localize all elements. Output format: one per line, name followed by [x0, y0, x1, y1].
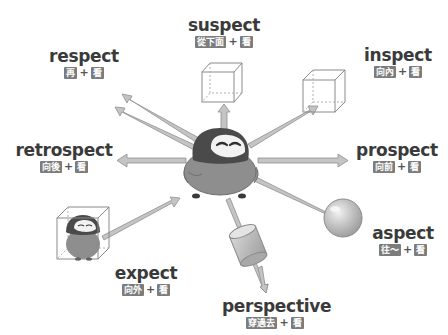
plus-sign: +	[64, 161, 73, 173]
arrow-respect-2	[115, 107, 197, 150]
gloss-prospect: 向前 + 看	[352, 161, 442, 173]
aspect-sphere	[324, 199, 362, 237]
root-box: 看	[408, 161, 421, 173]
root-box: 看	[240, 36, 253, 48]
small-penguin-icon	[66, 215, 100, 261]
root-box: 看	[157, 284, 170, 296]
term-perspective: perspective	[222, 296, 331, 316]
plus-sign: +	[79, 67, 88, 79]
gloss-aspect: 往～ + 看	[364, 244, 442, 256]
term-prospect: prospect	[356, 140, 438, 160]
expect-cube	[57, 207, 109, 261]
term-inspect: inspect	[364, 45, 432, 65]
inspect-cube	[303, 70, 345, 112]
prefix-box: 穿過去	[246, 317, 277, 329]
root-box: 看	[291, 317, 304, 329]
plus-sign: +	[146, 284, 155, 296]
prefix-box: 向前	[373, 161, 395, 173]
gloss-suspect: 從下面 + 看	[183, 36, 265, 48]
word-respect: respect 再 + 看	[44, 47, 124, 79]
perspective-cylinder	[228, 222, 269, 270]
word-perspective: perspective 穿過去 + 看	[222, 297, 328, 329]
gloss-expect: 向外 + 看	[110, 284, 182, 296]
term-respect: respect	[49, 46, 119, 66]
word-suspect: suspect 從下面 + 看	[183, 16, 265, 48]
arrow-prospect	[258, 154, 348, 167]
root-box: 看	[91, 67, 104, 79]
term-retrospect: retrospect	[15, 140, 112, 160]
arrow-retrospect	[117, 154, 186, 167]
word-expect: expect 向外 + 看	[110, 264, 182, 296]
plus-sign: +	[279, 317, 288, 329]
prefix-box: 再	[64, 67, 77, 79]
prefix-box: 從下面	[195, 36, 226, 48]
gloss-inspect: 向內 + 看	[358, 66, 438, 78]
prefix-box: 向外	[122, 284, 144, 296]
word-inspect: inspect 向內 + 看	[358, 46, 438, 78]
arrow-suspect	[218, 104, 230, 132]
term-aspect: aspect	[372, 223, 434, 243]
root-box: 看	[75, 161, 88, 173]
prefix-box: 往～	[379, 244, 401, 256]
word-prospect: prospect 向前 + 看	[352, 141, 442, 173]
arrow-expect	[102, 197, 180, 240]
gloss-perspective: 穿過去 + 看	[222, 317, 328, 329]
prefix-box: 向內	[374, 66, 396, 78]
arrow-aspect	[252, 176, 336, 219]
term-suspect: suspect	[188, 15, 260, 35]
prefix-box: 向後	[40, 161, 62, 173]
suspect-cube	[202, 63, 242, 102]
plus-sign: +	[403, 244, 412, 256]
term-expect: expect	[115, 263, 178, 283]
plus-sign: +	[398, 66, 407, 78]
gloss-retrospect: 向後 + 看	[14, 161, 114, 173]
word-aspect: aspect 往～ + 看	[364, 224, 442, 256]
plus-sign: +	[228, 36, 237, 48]
plus-sign: +	[397, 161, 406, 173]
root-box: 看	[409, 66, 422, 78]
gloss-respect: 再 + 看	[44, 67, 124, 79]
word-retrospect: retrospect 向後 + 看	[14, 141, 114, 173]
root-box: 看	[414, 244, 427, 256]
